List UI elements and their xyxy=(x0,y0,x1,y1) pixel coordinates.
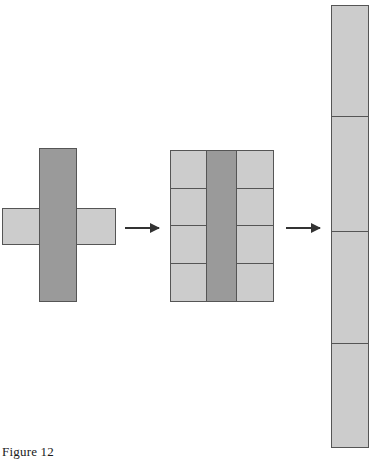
grid-cell xyxy=(170,225,208,264)
tall-bar-shape xyxy=(331,5,369,448)
tall-bar-segment xyxy=(331,231,369,345)
arrow-cross-to-grid-icon xyxy=(125,227,159,229)
grid-cell xyxy=(170,150,208,189)
grid-cell xyxy=(236,150,274,189)
tall-bar-segment xyxy=(331,343,369,448)
grid-left-column xyxy=(170,150,208,302)
grid-cell xyxy=(236,263,274,302)
grid-cell xyxy=(236,225,274,264)
arrow-grid-to-tall-icon xyxy=(286,227,320,229)
grid-cell xyxy=(236,188,274,227)
figure-caption: Figure 12 xyxy=(2,444,54,459)
figure-canvas: Figure 12 xyxy=(0,0,374,459)
cross-vertical-bar xyxy=(39,148,77,302)
grid-cell xyxy=(170,263,208,302)
grid-right-column xyxy=(236,150,274,302)
tall-bar-segment xyxy=(331,116,369,233)
grid-cell xyxy=(170,188,208,227)
tall-bar-segment xyxy=(331,5,369,118)
